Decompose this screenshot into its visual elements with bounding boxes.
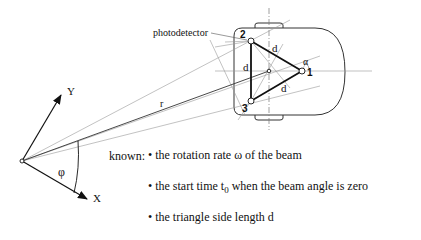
known-heading: known:	[109, 149, 145, 164]
side-left-d-label: d	[243, 62, 249, 73]
origin-point	[20, 159, 24, 163]
phi-label: φ	[58, 166, 65, 178]
known-item-start-time: • the start time t0 when the beam angle …	[148, 180, 368, 211]
y-axis-arrow	[22, 95, 61, 161]
alpha-label: α	[303, 57, 308, 67]
photodetector-label: photodetector	[153, 28, 208, 38]
side-bottom-d-label: d	[281, 83, 287, 94]
r-label: r	[160, 99, 163, 109]
side-top-d-label: d	[272, 43, 278, 54]
y-axis-label: Y	[67, 86, 75, 97]
node-2-label: 2	[240, 30, 246, 40]
x-axis-label: X	[93, 193, 101, 204]
node-1-label: 1	[307, 68, 313, 78]
x-axis-arrow	[22, 161, 87, 199]
known-list: • the rotation rate ω of the beam • the …	[148, 149, 368, 240]
known-item-rotation-rate: • the rotation rate ω of the beam	[148, 149, 368, 180]
node-3-label: 3	[242, 104, 248, 114]
known-item-side-length: • the triangle side length d	[148, 211, 368, 240]
phi-arc	[74, 141, 79, 193]
